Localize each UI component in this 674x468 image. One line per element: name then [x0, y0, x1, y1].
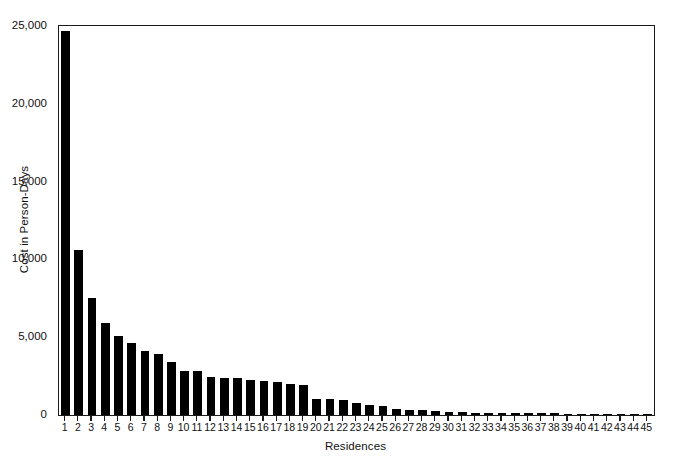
bar — [312, 399, 321, 415]
x-tick-label: 29 — [429, 421, 441, 434]
x-tick-label: 40 — [574, 421, 586, 434]
bar — [299, 385, 308, 415]
x-tick-label: 35 — [508, 421, 520, 434]
bar — [167, 362, 176, 415]
x-tick-mark — [342, 415, 343, 421]
x-tick-label: 32 — [469, 421, 481, 434]
x-tick-label: 3 — [88, 421, 94, 434]
x-tick-mark — [170, 415, 171, 421]
bar-series — [59, 26, 654, 415]
x-tick-mark — [276, 415, 277, 421]
x-tick-mark — [289, 415, 290, 421]
x-tick-label: 19 — [297, 421, 309, 434]
x-tick-label: 4 — [101, 421, 107, 434]
bar — [180, 371, 189, 415]
x-tick-label: 37 — [535, 421, 547, 434]
x-tick-mark — [606, 415, 607, 421]
x-tick-mark — [434, 415, 435, 421]
bar — [207, 377, 216, 415]
x-tick-label: 9 — [167, 421, 173, 434]
x-tick-label: 25 — [376, 421, 388, 434]
x-tick-label: 10 — [178, 421, 190, 434]
bar — [114, 336, 123, 415]
x-tick-mark — [355, 415, 356, 421]
x-tick-mark — [209, 415, 210, 421]
x-tick-label: 26 — [389, 421, 401, 434]
x-tick-label: 30 — [442, 421, 454, 434]
x-tick-mark — [646, 415, 647, 421]
x-tick-mark — [157, 415, 158, 421]
x-tick-label: 5 — [115, 421, 121, 434]
x-tick-mark — [633, 415, 634, 421]
x-tick-mark — [249, 415, 250, 421]
x-tick-label: 7 — [141, 421, 147, 434]
bar — [88, 298, 97, 415]
x-tick-label: 6 — [128, 421, 134, 434]
x-tick-mark — [619, 415, 620, 421]
bar — [61, 31, 70, 415]
x-tick-label: 14 — [231, 421, 243, 434]
x-tick-mark — [315, 415, 316, 421]
x-tick-mark — [223, 415, 224, 421]
x-axis-title: Residences — [58, 440, 653, 452]
bar — [260, 381, 269, 415]
x-tick-mark — [196, 415, 197, 421]
x-tick-label: 17 — [270, 421, 282, 434]
x-tick-label: 33 — [482, 421, 494, 434]
bar — [326, 399, 335, 415]
x-tick-label: 2 — [75, 421, 81, 434]
x-tick-label: 1 — [62, 421, 68, 434]
bar — [127, 343, 136, 415]
x-tick-label: 21 — [323, 421, 335, 434]
x-tick-mark — [130, 415, 131, 421]
x-tick-label: 42 — [601, 421, 613, 434]
y-tick-label: 20,000 — [0, 98, 52, 108]
x-tick-label: 31 — [455, 421, 467, 434]
x-tick-label: 34 — [495, 421, 507, 434]
bar — [233, 378, 242, 415]
x-tick-label: 27 — [403, 421, 415, 434]
x-tick-mark — [461, 415, 462, 421]
x-tick-label: 8 — [154, 421, 160, 434]
y-tick-label: 25,000 — [0, 20, 52, 30]
x-tick-mark — [117, 415, 118, 421]
x-tick-label: 45 — [641, 421, 653, 434]
y-tick-label: 10,000 — [0, 253, 52, 263]
y-tick-label: 5,000 — [0, 331, 52, 341]
x-tick-mark — [566, 415, 567, 421]
plot-area — [58, 25, 655, 416]
x-axis-tick-labels: 1234567891011121314151617181920212223242… — [58, 421, 653, 435]
x-tick-label: 15 — [244, 421, 256, 434]
bar — [273, 382, 282, 415]
x-tick-mark — [368, 415, 369, 421]
x-tick-mark — [381, 415, 382, 421]
x-tick-label: 22 — [336, 421, 348, 434]
x-tick-mark — [395, 415, 396, 421]
x-tick-mark — [527, 415, 528, 421]
x-tick-label: 44 — [627, 421, 639, 434]
x-tick-label: 36 — [522, 421, 534, 434]
x-tick-mark — [64, 415, 65, 421]
x-tick-label: 24 — [363, 421, 375, 434]
x-tick-label: 13 — [217, 421, 229, 434]
x-tick-label: 41 — [588, 421, 600, 434]
x-tick-mark — [540, 415, 541, 421]
bar — [352, 403, 361, 415]
x-tick-mark — [183, 415, 184, 421]
x-tick-mark — [77, 415, 78, 421]
x-tick-label: 20 — [310, 421, 322, 434]
bar — [286, 384, 295, 415]
x-tick-mark — [236, 415, 237, 421]
x-tick-mark — [580, 415, 581, 421]
x-tick-mark — [553, 415, 554, 421]
bar — [220, 378, 229, 415]
x-tick-label: 16 — [257, 421, 269, 434]
bar — [193, 371, 202, 415]
x-tick-label: 38 — [548, 421, 560, 434]
x-tick-mark — [514, 415, 515, 421]
bar — [141, 351, 150, 415]
chart-figure: Cost in Person-Days 05,00010,00015,00020… — [0, 0, 674, 468]
x-tick-mark — [421, 415, 422, 421]
x-tick-mark — [328, 415, 329, 421]
x-tick-label: 23 — [350, 421, 362, 434]
